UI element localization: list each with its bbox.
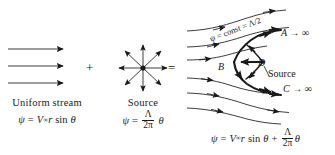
streamline-lower-3 [187, 108, 281, 124]
uniform-psi-symbol: ψ [18, 114, 25, 125]
equals-operator: = [168, 61, 175, 74]
total-radius-symbol: r [241, 133, 245, 144]
uniform-angle-symbol: θ [71, 114, 76, 125]
streamline-lower-1 [187, 78, 267, 93]
fluid-superposition-figure: Uniform stream ψ = V∞r sin θ [0, 0, 335, 155]
total-angle-symbol-2: θ [295, 133, 300, 144]
uniform-equals: = [28, 114, 34, 125]
total-psi-symbol: ψ [211, 133, 218, 144]
uniform-stream-arrows [0, 0, 95, 95]
total-trig-fn: sin [248, 133, 260, 144]
source-formula: ψ = Λ 2π θ [100, 110, 186, 130]
source-fraction-denominator: 2π [142, 120, 154, 131]
plus-operator: + [86, 61, 93, 74]
source-ray-nw [125, 51, 143, 68]
source-ray-se [143, 68, 161, 85]
point-a-arrow [269, 29, 279, 30]
source-equals: = [132, 115, 138, 126]
source-point-label: Source [268, 69, 296, 79]
point-b-label: B [218, 62, 224, 72]
uniform-stream-panel [0, 0, 95, 95]
source-caption: Source [100, 97, 186, 108]
source-ray-ne [143, 51, 161, 68]
uniform-radius-symbol: r [48, 114, 52, 125]
uniform-trig-fn: sin [55, 114, 67, 125]
point-c-label: C → ∞ [283, 84, 312, 94]
total-fraction-denominator: 2π [282, 138, 294, 149]
total-equals: = [221, 133, 227, 144]
uniform-stream-formula: ψ = V∞r sin θ [0, 114, 94, 125]
total-fraction: Λ 2π [282, 128, 294, 148]
point-a-label: A → ∞ [281, 28, 309, 38]
source-ray-sw [125, 68, 143, 85]
source-psi-symbol: ψ [122, 115, 129, 126]
uniform-stream-caption: Uniform stream [0, 97, 94, 108]
source-point-marker [140, 65, 145, 70]
source-fraction: Λ 2π [142, 110, 154, 130]
total-angle-symbol: θ [263, 133, 268, 144]
total-fraction-numerator: Λ [283, 128, 292, 138]
point-d-label: D [258, 58, 265, 68]
half-body-formula: ψ = V∞r sin θ + Λ 2π θ [176, 128, 335, 148]
point-c-arrow [269, 94, 279, 95]
source-fraction-numerator: Λ [144, 110, 153, 120]
total-plus-operator: + [271, 133, 277, 144]
source-angle-symbol: θ [158, 115, 163, 126]
